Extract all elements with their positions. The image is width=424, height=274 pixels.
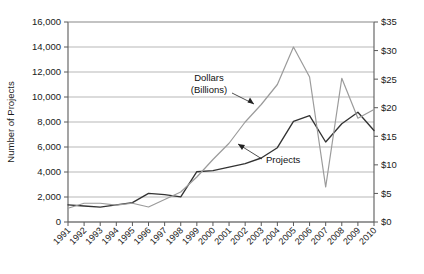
y2-axis-tick-label: $5 <box>381 188 392 199</box>
y-axis-tick-label: 4,000 <box>37 166 61 177</box>
line-chart: 02,0004,0006,0008,00010,00012,00014,0001… <box>0 0 424 274</box>
x-axis-tick-label: 2008 <box>325 225 346 246</box>
y-axis-tick-label: 6,000 <box>37 141 61 152</box>
chart-container: 02,0004,0006,0008,00010,00012,00014,0001… <box>0 0 424 274</box>
x-axis-tick-label: 1992 <box>67 225 88 246</box>
x-axis-tick-label: 1995 <box>116 225 137 246</box>
y2-axis-tick-label: $10 <box>381 159 397 170</box>
x-axis-tick-label: 2004 <box>261 225 282 246</box>
x-axis-tick-label: 1999 <box>180 225 201 246</box>
x-axis-tick-label: 2001 <box>212 225 233 246</box>
x-axis-tick-label: 2010 <box>357 225 378 246</box>
x-axis-tick-label: 2007 <box>309 225 330 246</box>
x-axis-tick-label: 1991 <box>51 225 72 246</box>
annotation-projects-label: Projects <box>266 154 301 165</box>
series-line-dollars-billions <box>68 112 374 207</box>
x-axis-tick-label: 2003 <box>244 225 265 246</box>
x-axis-tick-label: 1993 <box>83 225 104 246</box>
y-axis-tick-label: 10,000 <box>32 91 61 102</box>
y-axis-tick-label: 8,000 <box>37 116 61 127</box>
y-axis-tick-label: 0 <box>56 216 61 227</box>
x-axis-tick-label: 2005 <box>277 225 298 246</box>
y-axis-title: Number of Projects <box>5 81 16 163</box>
x-axis-tick-label: 2006 <box>293 225 314 246</box>
x-axis-tick-label: 1994 <box>99 225 120 246</box>
y2-axis-tick-label: $15 <box>381 131 397 142</box>
annotation-dollars-line2: (Billions) <box>191 84 227 95</box>
x-axis-tick-label: 2002 <box>228 225 249 246</box>
x-axis-tick-label: 2009 <box>341 225 362 246</box>
y-axis-tick-label: 14,000 <box>32 41 61 52</box>
y-axis-tick-label: 2,000 <box>37 191 61 202</box>
annotation-dollars-arrowhead <box>248 98 255 105</box>
annotation-dollars-line1: Dollars <box>194 72 224 83</box>
y2-axis-tick-label: $25 <box>381 74 397 85</box>
y2-axis-tick-label: $0 <box>381 216 392 227</box>
y2-axis-tick-label: $30 <box>381 45 397 56</box>
y2-axis-tick-label: $20 <box>381 102 397 113</box>
x-axis-tick-label: 2000 <box>196 225 217 246</box>
y-axis-tick-label: 12,000 <box>32 66 61 77</box>
x-axis-tick-label: 1996 <box>132 225 153 246</box>
y2-axis-tick-label: $35 <box>381 16 397 27</box>
x-axis-tick-label: 1997 <box>148 225 169 246</box>
y-axis-tick-label: 16,000 <box>32 16 61 27</box>
x-axis-tick-label: 1998 <box>164 225 185 246</box>
